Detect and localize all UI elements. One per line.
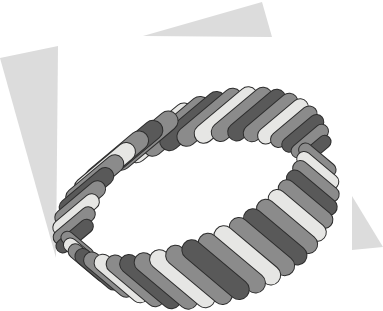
woven-ring-illustration [0, 0, 383, 311]
illustration-canvas [0, 0, 383, 311]
